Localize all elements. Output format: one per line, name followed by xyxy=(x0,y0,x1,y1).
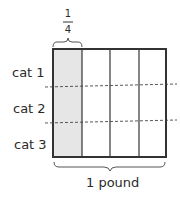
row-label-cat-3: cat 3 xyxy=(14,138,47,151)
whole-label: 1 pound xyxy=(86,176,139,189)
fraction-numerator: 1 xyxy=(61,9,75,19)
fraction-denominator: 4 xyxy=(61,25,75,35)
row-label-cat-2: cat 2 xyxy=(13,102,46,115)
area-model-svg xyxy=(0,0,180,198)
bottom-brace xyxy=(54,162,165,171)
row-label-cat-1: cat 1 xyxy=(12,66,45,79)
shaded-quarter xyxy=(53,49,82,157)
top-brace xyxy=(53,38,82,47)
